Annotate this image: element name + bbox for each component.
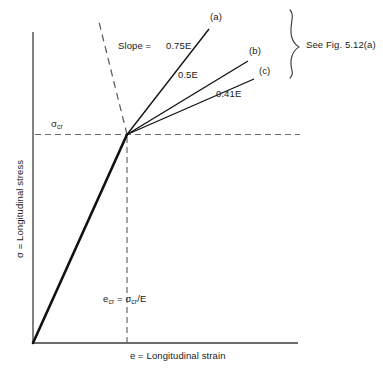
sigma-cr-subscript: cr (57, 123, 63, 130)
curve-c-tag: (c) (259, 66, 270, 76)
curve-a-slope-label: 0.75E (166, 41, 191, 51)
curve-b-tag: (b) (249, 46, 261, 56)
curly-brace-icon (290, 10, 299, 78)
e-cr-equals-sigma: = σ (114, 293, 131, 304)
e-cr-subscript: cr (108, 298, 114, 305)
slope-caption-label: Slope = (118, 41, 151, 51)
modulus-e-extension-line (99, 22, 127, 135)
e-cr-sigma-subscript: cr (131, 298, 137, 305)
stress-strain-figure: σ = Longitudinal stress e = Longitudinal… (0, 0, 383, 371)
sigma-cr-label: σcr (51, 119, 63, 129)
elastic-branch-line (33, 135, 127, 344)
curve-b-slope-label: 0.5E (178, 70, 198, 80)
x-axis-title: e = Longitudinal strain (130, 351, 226, 361)
y-axis-title: σ = Longitudinal stress (14, 160, 25, 258)
cross-reference-note: See Fig. 5.12(a) (306, 40, 376, 50)
figure-canvas (0, 0, 383, 371)
curve-a-tag: (a) (210, 12, 222, 22)
e-cr-over-e: /E (137, 293, 146, 304)
curve-c-slope-label: 0.41E (216, 89, 241, 99)
e-cr-expression-label: ecr = σcr/E (103, 294, 146, 304)
